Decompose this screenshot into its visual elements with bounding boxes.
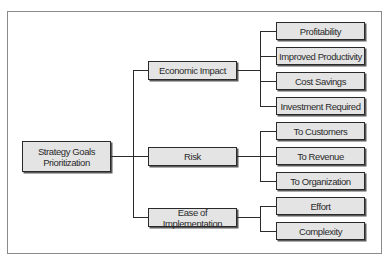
connector-to-organization — [260, 181, 276, 182]
root-node: Strategy Goals Prioritization — [22, 141, 111, 172]
connector-to-improved-productivity — [260, 56, 276, 57]
leaf-node-complexity: Complexity — [276, 222, 365, 240]
connector-to-investment-required — [260, 106, 276, 107]
category-node-risk: Risk — [148, 147, 237, 166]
leaf-node-to-organization: To Organization — [276, 172, 365, 190]
category-node-economic-impact: Economic Impact — [148, 61, 237, 80]
connector-main-trunk — [133, 70, 134, 218]
category-label: Ease of Implementation — [149, 207, 236, 229]
leaf-node-effort: Effort — [276, 197, 365, 215]
leaf-label: To Organization — [290, 176, 351, 187]
leaf-label: Profitability — [300, 26, 341, 37]
leaf-label: Effort — [310, 201, 330, 212]
leaf-label: To Customers — [294, 126, 348, 137]
connector-to-economic — [133, 70, 148, 71]
connector-to-revenue — [260, 156, 276, 157]
connector-to-profitability — [260, 31, 276, 32]
leaf-node-profitability: Profitability — [276, 22, 365, 40]
connector-risk-out — [237, 156, 260, 157]
leaf-label: To Revenue — [297, 151, 344, 162]
connector-to-customers — [260, 131, 276, 132]
connector-ease-trunk — [260, 206, 261, 232]
category-label: Economic Impact — [159, 65, 226, 76]
leaf-node-to-revenue: To Revenue — [276, 147, 365, 165]
connector-to-ease — [133, 217, 148, 218]
connector-economic-out — [237, 70, 260, 71]
connector-to-risk — [133, 156, 148, 157]
connector-root-to-trunk — [111, 156, 133, 157]
category-node-ease-of-implementation: Ease of Implementation — [148, 208, 237, 227]
connector-to-cost-savings — [260, 81, 276, 82]
connector-to-effort — [260, 206, 276, 207]
leaf-label: Complexity — [299, 226, 342, 237]
category-label: Risk — [184, 151, 201, 162]
connector-economic-trunk — [260, 31, 261, 107]
leaf-node-cost-savings: Cost Savings — [276, 72, 365, 90]
leaf-label: Improved Productivity — [279, 51, 362, 62]
leaf-node-investment-required: Investment Required — [276, 97, 365, 115]
root-label-line1: Strategy Goals — [38, 146, 95, 157]
connector-to-complexity — [260, 231, 276, 232]
leaf-label: Cost Savings — [295, 76, 346, 87]
connector-ease-out — [237, 217, 260, 218]
leaf-node-to-customers: To Customers — [276, 122, 365, 140]
root-label-line2: Prioritization — [43, 157, 90, 168]
leaf-node-improved-productivity: Improved Productivity — [276, 47, 365, 65]
leaf-label: Investment Required — [280, 101, 360, 112]
